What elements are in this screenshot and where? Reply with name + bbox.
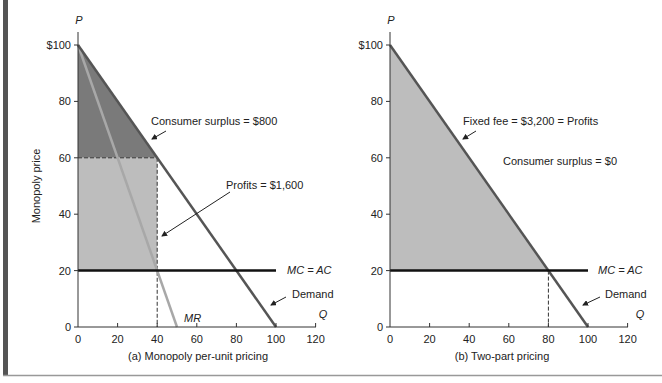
mr-label: MR [184,312,201,324]
x-tick-20: 20 [111,333,123,345]
x-tick-20: 20 [423,333,435,345]
panel-a-title: (a) Monopoly per-unit pricing [128,350,268,362]
profits-label: Profits = $1,600 [226,179,303,191]
y-tick-40: 40 [371,208,383,220]
consumer-surplus-arrow-icon [152,131,166,139]
x-tick-0: 0 [387,333,393,345]
consumer-surplus-label: Consumer surplus = $0 [503,155,617,167]
y-tick-80: 80 [59,95,71,107]
y-tick-80: 80 [371,95,383,107]
y-tick-100: $100 [359,39,383,51]
figure: $100 80 60 40 20 0 0 20 40 60 80 100 120… [0,0,662,383]
y-tick-0: 0 [377,321,383,333]
demand-label: Demand [292,288,334,300]
profits-arrow-icon [162,192,230,236]
x-tick-80: 80 [230,333,242,345]
chart-panel-b: $100 80 60 40 20 0 0 20 40 60 80 100 120… [359,14,647,362]
y-tick-0: 0 [65,321,71,333]
fixed-fee-label: Fixed fee = $3,200 = Profits [463,115,599,127]
y-axis-label: Monopoly price [30,149,42,224]
x-tick-100: 100 [267,333,285,345]
demand-arrow-icon [271,297,286,305]
x-tick-120: 120 [618,333,636,345]
q-axis-symbol: Q [636,308,645,320]
p-axis-symbol: P [75,14,83,26]
x-tick-80: 80 [542,333,554,345]
demand-label: Demand [605,288,647,300]
consumer-surplus-label: Consumer surplus = $800 [151,115,277,127]
x-tick-40: 40 [463,333,475,345]
y-tick-60: 60 [371,152,383,164]
x-tick-60: 60 [191,333,203,345]
mc-ac-label: MC = AC [287,264,332,276]
x-tick-60: 60 [503,333,515,345]
q-axis-symbol: Q [319,308,328,320]
y-tick-20: 20 [59,265,71,277]
x-tick-0: 0 [75,333,81,345]
y-tick-40: 40 [59,208,71,220]
y-tick-100: $100 [47,39,71,51]
y-tick-60: 60 [59,152,71,164]
chart-panel-a: $100 80 60 40 20 0 0 20 40 60 80 100 120… [30,14,334,362]
profit-region [78,158,157,271]
x-tick-100: 100 [579,333,597,345]
fixed-fee-arrow-icon [463,131,476,139]
left-border-bar [3,0,8,376]
x-tick-120: 120 [306,333,324,345]
y-tick-20: 20 [371,265,383,277]
mc-ac-label: MC = AC [598,264,643,276]
p-axis-symbol: P [387,14,395,26]
demand-arrow-icon [583,297,600,305]
panel-b-title: (b) Two-part pricing [455,350,550,362]
x-tick-40: 40 [151,333,163,345]
